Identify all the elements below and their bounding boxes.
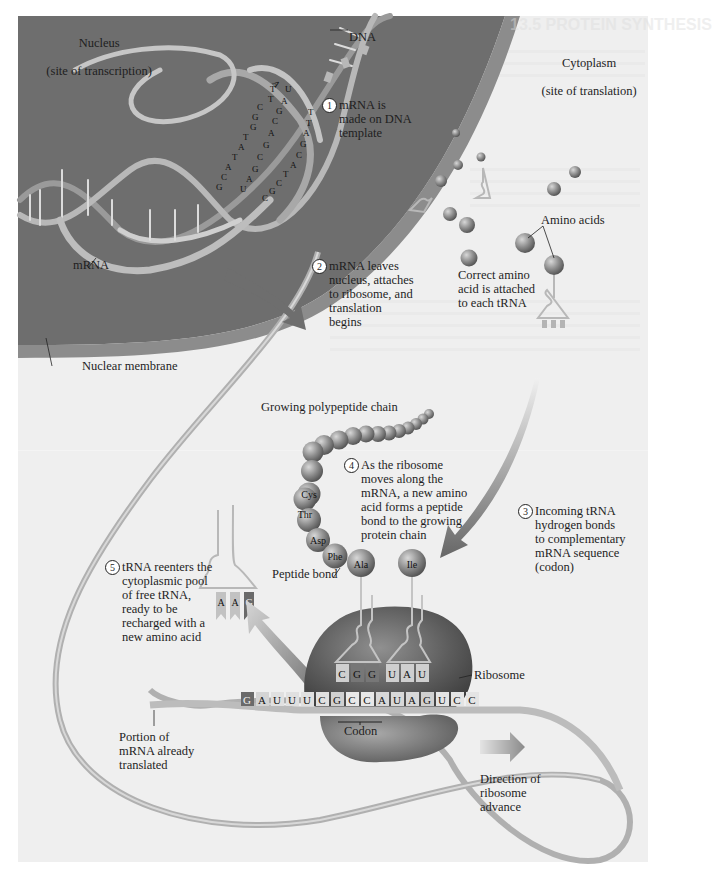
svg-text:U: U (303, 694, 311, 706)
step-4: 4 As the ribosome moves along the mRNA, … (344, 458, 467, 542)
growing-polypeptide-label: Growing polypeptide chain (261, 400, 398, 414)
step-2-number: 2 (312, 259, 327, 274)
codon-label: Codon (344, 724, 377, 738)
svg-text:U: U (393, 694, 401, 706)
svg-text:T: T (268, 94, 274, 104)
step-1: 1 mRNA is made on DNA template (322, 98, 412, 140)
svg-text:T: T (283, 169, 289, 179)
cytoplasm-subtitle: (site of translation) (542, 84, 637, 98)
svg-text:G: G (269, 186, 276, 196)
svg-text:U: U (418, 668, 426, 680)
svg-text:G: G (300, 139, 307, 149)
svg-text:A: A (290, 160, 297, 170)
svg-text:C: C (257, 102, 263, 112)
svg-text:Phe: Phe (328, 551, 344, 562)
svg-text:Thr: Thr (298, 509, 313, 520)
svg-text:T: T (232, 152, 238, 162)
step-2-text: mRNA leaves nucleus, attaches to ribosom… (329, 259, 414, 329)
svg-text:A: A (246, 174, 253, 184)
svg-text:C: C (262, 193, 268, 203)
svg-text:G: G (276, 106, 283, 116)
svg-text:G: G (333, 694, 341, 706)
svg-text:G: G (243, 694, 251, 706)
step-5-number: 5 (105, 560, 120, 575)
direction-label: Direction of ribosome advance (480, 772, 541, 814)
svg-text:T: T (308, 107, 314, 117)
svg-text:A: A (231, 597, 239, 608)
svg-text:G: G (368, 668, 376, 680)
svg-text:U: U (438, 694, 446, 706)
nucleus-subtitle: (site of transcription) (46, 64, 152, 78)
svg-text:T: T (270, 84, 276, 94)
svg-text:C: C (338, 668, 345, 680)
svg-text:G: G (263, 140, 270, 150)
step-1-number: 1 (322, 98, 337, 113)
svg-text:C: C (348, 694, 355, 706)
svg-text:A: A (238, 142, 245, 152)
step-3: 3 Incoming tRNA hydrogen bonds to comple… (518, 504, 626, 574)
svg-text:Cys: Cys (301, 489, 317, 500)
step-2: 2 mRNA leaves nucleus, attaches to ribos… (312, 259, 414, 329)
step-4-number: 4 (344, 458, 359, 473)
step-5-text: tRNA reenters the cytoplasmic pool of fr… (122, 560, 212, 644)
step-3-number: 3 (518, 504, 533, 519)
dna-label: DNA (349, 30, 376, 44)
svg-text:C: C (257, 152, 263, 162)
correct-amino-acid-label: Correct amino acid is attached to each t… (458, 268, 535, 310)
svg-text:G: G (423, 694, 431, 706)
svg-text:G: G (216, 182, 223, 192)
step-3-text: Incoming tRNA hydrogen bonds to compleme… (535, 504, 626, 574)
svg-text:A: A (217, 597, 225, 608)
svg-text:C: C (221, 172, 227, 182)
svg-text:C: C (318, 694, 325, 706)
cytoplasm-label: Cytoplasm (site of translation) (526, 42, 646, 98)
svg-text:C: C (468, 694, 475, 706)
amino-acids-label: Amino acids (541, 213, 605, 227)
nuclear-membrane-label: Nuclear membrane (82, 359, 177, 373)
svg-text:C: C (276, 178, 282, 188)
svg-text:A: A (303, 128, 310, 138)
step-1-text: mRNA is made on DNA template (339, 98, 412, 140)
svg-text:Ala: Ala (354, 559, 369, 570)
svg-text:G: G (250, 122, 257, 132)
nucleus-label: Nucleus (site of transcription) (36, 22, 156, 78)
svg-text:A: A (408, 694, 416, 706)
svg-text:C: C (296, 150, 302, 160)
step-4-text: As the ribosome moves along the mRNA, a … (361, 458, 467, 542)
svg-text:U: U (285, 84, 292, 94)
svg-text:A: A (225, 162, 232, 172)
svg-text:Asp: Asp (310, 535, 326, 546)
peptide-bond-label: Peptide bond (272, 567, 338, 581)
nucleus-title: Nucleus (79, 36, 120, 50)
svg-text:U: U (288, 694, 296, 706)
svg-text:G: G (252, 164, 259, 174)
svg-text:U: U (273, 694, 281, 706)
svg-text:C: C (453, 694, 460, 706)
cytoplasm-title: Cytoplasm (562, 56, 616, 70)
svg-text:G: G (252, 112, 259, 122)
svg-text:U: U (240, 184, 247, 194)
svg-text:U: U (388, 668, 396, 680)
mrna-label: mRNA (73, 258, 109, 272)
svg-text:A: A (258, 694, 266, 706)
ribosome-label: Ribosome (474, 668, 525, 682)
translated-portion-label: Portion of mRNA already translated (119, 730, 194, 772)
svg-text:C: C (272, 116, 278, 126)
svg-text:A: A (281, 96, 288, 106)
svg-text:Ile: Ile (407, 559, 418, 570)
svg-text:T: T (306, 118, 312, 128)
svg-text:A: A (268, 128, 275, 138)
charged-trna-anticodon-stubs (542, 320, 565, 328)
svg-text:A: A (378, 694, 386, 706)
svg-text:T: T (243, 132, 249, 142)
svg-text:C: C (363, 694, 370, 706)
svg-text:G: G (353, 668, 361, 680)
ghost-heading: 13.5 PROTEIN SYNTHESIS (510, 16, 712, 34)
svg-text:A: A (403, 668, 411, 680)
step-5: 5 tRNA reenters the cytoplasmic pool of … (105, 560, 212, 644)
